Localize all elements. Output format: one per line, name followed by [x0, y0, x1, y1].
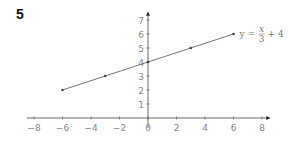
data-point: [147, 61, 150, 64]
equation-label-lhs: y =: [239, 29, 256, 39]
y-tick-label: 1: [138, 100, 144, 110]
x-tick-label: −2: [113, 123, 126, 133]
x-tick-label: −6: [56, 123, 70, 133]
y-tick-label: 5: [138, 44, 144, 54]
y-tick-label: 7: [138, 16, 144, 26]
data-point: [104, 75, 107, 78]
x-tick-label: 2: [174, 123, 180, 133]
y-tick-label: 4: [138, 58, 144, 68]
x-tick-label: 6: [231, 123, 237, 133]
y-tick-label: 6: [138, 30, 144, 40]
line-chart: −8−6−4−2024681234567y =x3+ 4: [0, 0, 293, 141]
data-point: [61, 89, 64, 92]
equation-numerator: x: [259, 24, 264, 34]
x-tick-label: 8: [259, 123, 265, 133]
x-tick-label: 0: [145, 123, 151, 133]
equation-label-rhs: + 4: [268, 29, 284, 39]
data-point: [189, 47, 192, 50]
y-tick-label: 3: [138, 72, 144, 82]
y-axis-arrow-icon: [146, 12, 150, 16]
x-axis-arrow-icon: [266, 116, 270, 120]
x-tick-label: −8: [27, 123, 41, 133]
y-tick-label: 2: [138, 86, 144, 96]
data-point: [232, 33, 235, 36]
x-tick-label: 4: [202, 123, 208, 133]
x-tick-label: −4: [84, 123, 98, 133]
equation-denominator: 3: [259, 34, 265, 44]
